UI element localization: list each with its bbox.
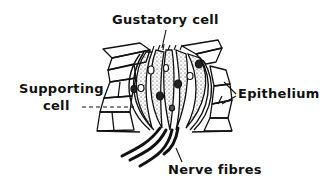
label-supporting-cell-line2: cell — [43, 99, 70, 112]
label-gustatory-cell: Gustatory cell — [112, 13, 219, 26]
epithelium-right — [182, 40, 232, 131]
leader-nerve — [176, 148, 182, 162]
label-epithelium: Epithelium — [238, 87, 320, 100]
label-supporting-cell-line1: Supporting — [19, 82, 104, 95]
gustatory-cells — [136, 50, 205, 130]
taste-bud-diagram: Gustatory cell Supporting cell Epitheliu… — [0, 0, 331, 192]
leader-epithelium-2 — [222, 96, 236, 104]
label-nerve-fibres: Nerve fibres — [168, 163, 262, 176]
nerve-fibres — [122, 128, 178, 166]
